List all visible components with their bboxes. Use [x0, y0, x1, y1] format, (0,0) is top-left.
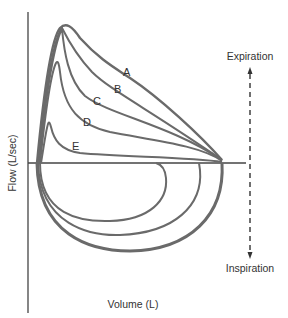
label-c: C — [93, 95, 101, 107]
x-axis-label: Volume (L) — [108, 298, 159, 310]
arrow-down-icon — [248, 252, 253, 259]
label-e: E — [72, 140, 79, 152]
arrow-up-icon — [248, 67, 253, 74]
label-b: B — [114, 83, 121, 95]
curve-d — [40, 62, 222, 163]
inspiratory-loop-middle — [38, 163, 200, 235]
inspiration-label: Inspiration — [226, 262, 275, 274]
curve-e — [41, 123, 222, 163]
inspiratory-loop-inner — [40, 163, 166, 221]
inspiratory-loop-outer — [37, 163, 222, 251]
flow-volume-diagram: A B C D E Expiration Inspiration Flow (L… — [0, 0, 288, 318]
label-d: D — [83, 116, 91, 128]
label-a: A — [123, 66, 131, 78]
y-axis-label: Flow (L/sec) — [6, 134, 18, 191]
expiration-label: Expiration — [227, 50, 274, 62]
curve-c — [39, 29, 222, 163]
